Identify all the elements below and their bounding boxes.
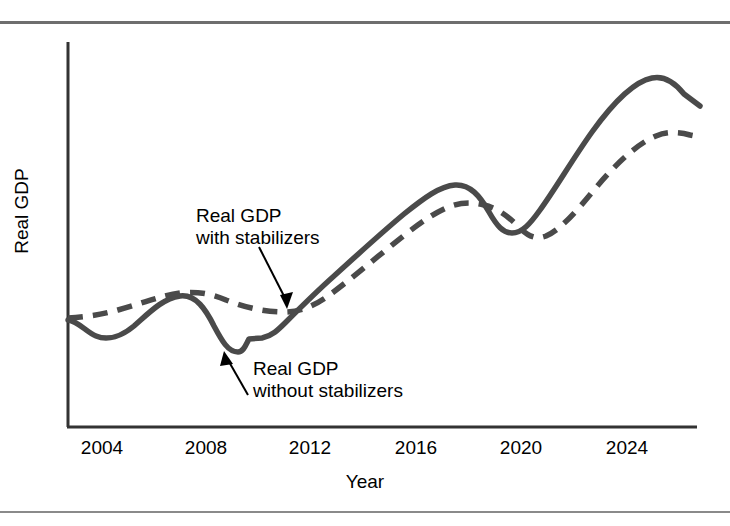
x-tick-label-2020: 2020 — [486, 437, 556, 459]
series-line-without-stabilizers — [68, 77, 700, 352]
annotation-without-stabilizers: Real GDP without stabilizers — [253, 358, 403, 403]
annotation-with-stabilizers-line2: with stabilizers — [196, 227, 320, 249]
annotation-leader-without-stabilizers — [220, 351, 248, 395]
annotation-leader-with-stabilizers — [259, 247, 293, 309]
x-tick-label-2024: 2024 — [592, 437, 662, 459]
figure-container: 2004 2008 2012 2016 2020 2024 Year Real … — [0, 0, 730, 526]
x-tick-label-2008: 2008 — [171, 437, 241, 459]
y-axis-title: Real GDP — [11, 151, 33, 271]
series-line-with-stabilizers — [68, 133, 700, 319]
x-axis-title: Year — [0, 471, 730, 493]
annotation-without-stabilizers-line2: without stabilizers — [253, 380, 403, 402]
annotation-with-stabilizers: Real GDP with stabilizers — [196, 205, 320, 250]
annotation-without-stabilizers-line1: Real GDP — [253, 358, 403, 380]
x-tick-label-2016: 2016 — [381, 437, 451, 459]
x-tick-label-2012: 2012 — [275, 437, 345, 459]
annotation-with-stabilizers-line1: Real GDP — [196, 205, 320, 227]
x-tick-label-2004: 2004 — [67, 437, 137, 459]
